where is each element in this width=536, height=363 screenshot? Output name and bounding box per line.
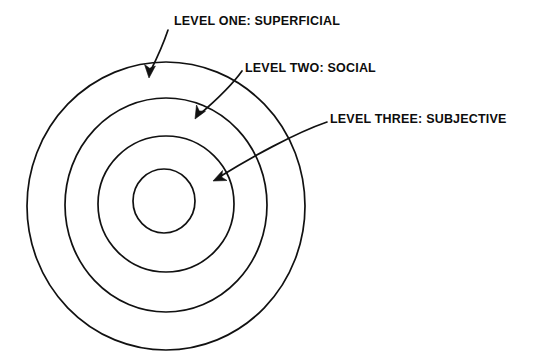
arrow-level-three xyxy=(213,122,327,181)
level-one-outer-ring xyxy=(27,62,305,350)
level-two-ring xyxy=(65,98,267,312)
arrow-level-one xyxy=(145,30,169,78)
label-level-three: LEVEL THREE: SUBJECTIVE xyxy=(330,113,507,126)
diagram-canvas: LEVEL ONE: SUPERFICIAL LEVEL TWO: SOCIAL… xyxy=(0,0,536,363)
arrowhead-level-one xyxy=(145,65,156,79)
level-three-ring xyxy=(98,136,234,272)
arrowhead-level-two xyxy=(195,105,206,119)
arrowhead-level-three xyxy=(213,171,227,182)
core-circle xyxy=(133,169,195,233)
label-level-one: LEVEL ONE: SUPERFICIAL xyxy=(174,15,340,28)
concentric-circles-diagram xyxy=(0,0,536,363)
arrow-level-two xyxy=(195,71,242,119)
label-level-two: LEVEL TWO: SOCIAL xyxy=(245,62,376,75)
